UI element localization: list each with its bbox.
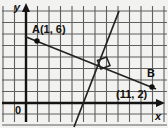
point-b-dot xyxy=(149,84,154,89)
point-a-dot xyxy=(34,38,39,43)
y-axis-label: y xyxy=(14,2,20,13)
point-b-coordinates-label: (11, 2) xyxy=(116,89,147,100)
coordinate-plane-figure: A(1, 6) B (11, 2) y x 0 xyxy=(0,0,168,128)
origin-label: 0 xyxy=(15,105,21,116)
x-axis-label: x xyxy=(155,111,161,122)
point-b-label: B xyxy=(147,68,155,79)
y-axis-arrowhead xyxy=(22,3,30,12)
figure-svg xyxy=(0,0,168,128)
point-a-label: A(1, 6) xyxy=(32,24,66,35)
axes xyxy=(2,9,158,122)
segment-ab xyxy=(25,37,156,90)
